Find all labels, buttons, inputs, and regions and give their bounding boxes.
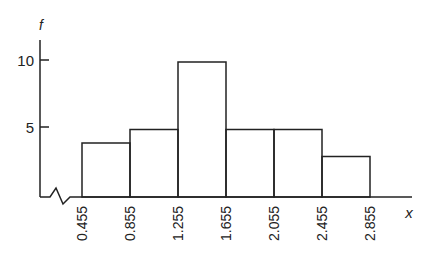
y-axis-label: f <box>39 17 45 33</box>
histogram-bar <box>226 130 274 198</box>
x-tick-label: 2.855 <box>362 206 378 241</box>
x-tick-label: 2.455 <box>314 206 330 241</box>
x-tick-label: 0.455 <box>74 206 90 241</box>
x-tick-label: 0.855 <box>122 206 138 241</box>
x-axis-label: x <box>404 204 413 221</box>
y-tick-label-10: 10 <box>17 52 34 69</box>
x-tick-label: 1.255 <box>170 206 186 241</box>
histogram-chart: f 10 5 x 0.4550.8551.2551.6552.0552.4552… <box>0 0 428 268</box>
histogram-bar <box>274 130 322 198</box>
histogram-bar <box>82 143 130 197</box>
x-tick-label: 1.655 <box>218 206 234 241</box>
x-tick-labels: 0.4550.8551.2551.6552.0552.4552.855 <box>74 206 378 241</box>
histogram-bar <box>178 62 226 197</box>
bars <box>82 62 370 197</box>
histogram-bar <box>130 130 178 198</box>
x-tick-label: 2.055 <box>266 206 282 241</box>
x-axis-break <box>40 188 82 204</box>
y-tick-label-5: 5 <box>26 119 34 136</box>
histogram-bar <box>322 157 370 198</box>
